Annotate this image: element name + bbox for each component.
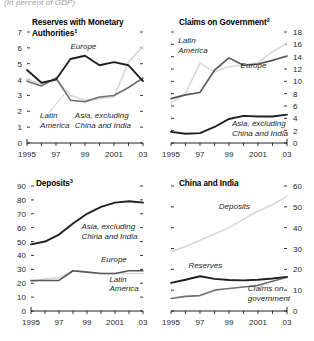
y-tick-label: 4: [18, 76, 23, 85]
y-tick-label: 0: [293, 139, 298, 148]
x-tick-label: 03: [283, 318, 292, 327]
x-tick-label: 1995: [162, 150, 180, 159]
panel-bottom-right: 010203040506019959799200103 DepositsRese…: [157, 172, 314, 341]
series-annotation: LatinAmerica: [177, 36, 208, 55]
x-tick-label: 03: [283, 150, 292, 159]
y-tick-label: 8: [293, 90, 298, 99]
y-tick-label: 40: [17, 251, 26, 260]
y-tick-label: 2: [293, 127, 298, 136]
y-tick-label: 30: [17, 265, 26, 274]
series-annotation: Asia, excludingChina and India: [74, 111, 132, 129]
panel-bottom-left-title: Deposits3: [36, 178, 73, 188]
x-tick-label: 2001: [105, 150, 123, 159]
x-tick-label: 2001: [249, 318, 267, 327]
y-tick-label: 3: [18, 91, 23, 100]
y-tick-label: 50: [293, 203, 302, 212]
x-tick-label: 97: [52, 150, 61, 159]
series-annotation: Europe: [241, 61, 267, 70]
panel-top-right-title: Claims on Government2: [179, 17, 270, 27]
x-tick-label: 97: [55, 318, 64, 327]
y-tick-label: 12: [293, 65, 302, 74]
x-tick-label: 99: [225, 150, 234, 159]
y-tick-label: 80: [17, 196, 26, 205]
y-tick-label: 4: [293, 114, 298, 123]
y-tick-label: 10: [293, 77, 302, 86]
figure-panel-grid: (In percent of GDP) 01234567199597992001…: [0, 0, 314, 341]
panel-bottom-right-title: China and India: [179, 179, 239, 188]
x-tick-label: 1995: [22, 318, 40, 327]
x-tick-label: 2001: [106, 318, 124, 327]
y-tick-label: 1: [18, 123, 23, 132]
y-tick-label: 20: [17, 279, 26, 288]
x-tick-label: 03: [139, 318, 148, 327]
y-tick-label: 60: [293, 182, 302, 191]
y-tick-label: 40: [293, 224, 302, 233]
panel-top-left: 0123456719959799200103 EuropeLatinAmeric…: [0, 12, 157, 170]
panel-top-left-title: Reserves with Monetary: [32, 18, 124, 27]
y-tick-label: 50: [17, 238, 26, 247]
x-tick-label: 99: [83, 318, 92, 327]
panel-top-left-svg: 0123456719959799200103 EuropeLatinAmeric…: [0, 12, 157, 170]
y-tick-label: 6: [18, 44, 23, 53]
x-tick-label: 03: [139, 150, 148, 159]
series-annotation: Deposits: [219, 202, 250, 211]
series-line: [171, 56, 287, 99]
y-tick-label: 18: [293, 28, 302, 37]
y-tick-label: 60: [17, 224, 26, 233]
y-tick-label: 0: [293, 307, 298, 316]
figure-units-label: (In percent of GDP): [4, 0, 75, 7]
y-tick-label: 20: [293, 265, 302, 274]
x-tick-label: 97: [196, 150, 205, 159]
panel-bottom-left: 010203040506070809019959799200103 Asia, …: [0, 172, 157, 341]
panel-top-right-svg: 02468101214161819959799200103 LatinAmeri…: [157, 12, 314, 170]
panel-bottom-left-svg: 010203040506070809019959799200103 Asia, …: [0, 172, 157, 341]
y-tick-label: 90: [17, 182, 26, 191]
series-line: [27, 46, 143, 100]
panel-top-left-title-line2: Authorities1: [32, 28, 77, 38]
y-tick-label: 14: [293, 53, 302, 62]
series-annotation: Europe: [101, 255, 127, 264]
series-annotation: Reserves: [188, 261, 222, 270]
y-tick-label: 0: [22, 307, 27, 316]
x-tick-label: 99: [81, 150, 90, 159]
y-tick-label: 16: [293, 40, 302, 49]
series-annotation: Claims ongovernment: [248, 284, 291, 303]
y-tick-label: 10: [17, 293, 26, 302]
x-tick-label: 1995: [18, 150, 36, 159]
series-annotation: Europe: [71, 42, 97, 51]
y-tick-label: 2: [18, 107, 23, 116]
series-annotation: LatinAmerica: [108, 275, 139, 294]
x-tick-label: 1995: [162, 318, 180, 327]
y-tick-label: 70: [17, 210, 26, 219]
y-tick-label: 7: [18, 28, 23, 37]
y-tick-label: 30: [293, 245, 302, 254]
series-annotation: Asia, excludingChina and India: [231, 119, 289, 138]
x-tick-label: 2001: [249, 150, 267, 159]
y-tick-label: 6: [293, 102, 298, 111]
series-annotation: LatinAmerica: [39, 111, 70, 129]
x-tick-label: 97: [196, 318, 205, 327]
y-tick-label: 0: [18, 139, 23, 148]
y-tick-label: 10: [293, 286, 302, 295]
series-annotation: Asia, excludingChina and India: [80, 222, 138, 241]
x-tick-label: 99: [225, 318, 234, 327]
panel-top-right: 02468101214161819959799200103 LatinAmeri…: [157, 12, 314, 170]
panel-bottom-right-svg: 010203040506019959799200103 DepositsRese…: [157, 172, 314, 341]
y-tick-label: 5: [18, 60, 23, 69]
